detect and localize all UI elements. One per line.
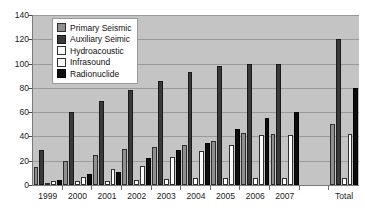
bar (247, 64, 252, 185)
y-tick-mark (28, 88, 32, 89)
x-tick-mark (91, 185, 92, 190)
x-tick-mark (269, 185, 270, 190)
bar (265, 118, 270, 185)
y-tick-mark (28, 39, 32, 40)
bar (51, 181, 56, 185)
bar (134, 180, 139, 185)
bar (193, 178, 198, 185)
bar (294, 112, 299, 185)
bar (336, 39, 341, 185)
y-tick-label: 80 (1, 84, 29, 93)
y-tick-label: 40 (1, 132, 29, 141)
x-tick-label: 2007 (270, 192, 300, 201)
bar (259, 135, 264, 185)
y-tick-label: 120 (1, 35, 29, 44)
y-tick-label: 140 (1, 11, 29, 20)
x-tick-mark (239, 185, 240, 190)
bar (276, 64, 281, 185)
bar (105, 181, 110, 185)
x-tick-label: 2001 (92, 192, 122, 201)
x-tick-label: 2006 (240, 192, 270, 201)
chart-legend: Primary SeismicAuxiliary SeimicHydroacou… (52, 18, 138, 84)
legend-item: Auxiliary Seimic (57, 34, 131, 46)
legend-swatch-icon (57, 23, 66, 32)
bar (229, 145, 234, 185)
legend-label: Hydroacoustic (70, 47, 124, 56)
x-tick-label: Total (329, 192, 359, 201)
legend-swatch-icon (57, 46, 66, 55)
bar-group (181, 15, 211, 185)
x-tick-label: 2000 (63, 192, 93, 201)
bar-group (270, 15, 300, 185)
bar (81, 177, 86, 186)
bar (288, 135, 293, 185)
bar (188, 72, 193, 185)
bar-group (211, 15, 241, 185)
x-tick-mark (328, 185, 329, 190)
y-tick-label: 0 (1, 181, 29, 190)
legend-item: Primary Seismic (57, 22, 131, 34)
legend-label: Primary Seismic (70, 24, 131, 33)
legend-swatch-icon (57, 58, 66, 67)
bar (271, 134, 276, 185)
y-tick-mark (28, 161, 32, 162)
bar (63, 161, 68, 185)
y-tick-label: 60 (1, 108, 29, 117)
x-tick-mark (210, 185, 211, 190)
bar (217, 66, 222, 185)
bar (75, 181, 80, 185)
x-tick-label: 2002 (122, 192, 152, 201)
x-tick-mark (299, 185, 300, 190)
y-tick-label: 100 (1, 60, 29, 69)
bar (111, 169, 116, 185)
bar (176, 150, 181, 185)
y-tick-mark (28, 15, 32, 16)
legend-item: Radionuclide (57, 68, 131, 80)
bar-group (152, 15, 182, 185)
bar (205, 143, 210, 186)
y-tick-mark (28, 112, 32, 113)
bar (342, 178, 347, 185)
bar (39, 150, 44, 185)
bar-group (329, 15, 359, 185)
legend-item: Infrasound (57, 57, 131, 69)
bar (152, 147, 157, 185)
bar (116, 172, 121, 185)
bar (128, 90, 133, 185)
bar (34, 167, 39, 185)
bar (199, 151, 204, 185)
bar (45, 183, 50, 185)
bar (253, 178, 258, 185)
legend-swatch-icon (57, 35, 66, 44)
legend-label: Radionuclide (70, 70, 119, 79)
bar (353, 88, 358, 185)
x-tick-label: 2005 (211, 192, 241, 201)
x-tick-label (300, 192, 330, 201)
bar (140, 166, 145, 185)
bar-chart: 140120100806040200 199920002001200220032… (0, 0, 365, 216)
x-tick-label: 2004 (181, 192, 211, 201)
bar (158, 81, 163, 185)
x-tick-label: 1999 (33, 192, 63, 201)
bar (211, 141, 216, 185)
x-tick-mark (62, 185, 63, 190)
legend-swatch-icon (57, 69, 66, 78)
bar (93, 155, 98, 185)
legend-label: Auxiliary Seimic (70, 35, 130, 44)
bar (87, 174, 92, 185)
legend-label: Infrasound (70, 58, 110, 67)
y-tick-mark (28, 185, 32, 186)
y-tick-mark (28, 136, 32, 137)
bar-group (240, 15, 270, 185)
x-tick-mark (151, 185, 152, 190)
y-tick-mark (28, 64, 32, 65)
bar (235, 129, 240, 185)
y-tick-label: 20 (1, 157, 29, 166)
bar (348, 134, 353, 185)
bar (170, 157, 175, 185)
bar (282, 178, 287, 185)
bar (99, 101, 104, 185)
bar (223, 178, 228, 185)
x-tick-mark (121, 185, 122, 190)
x-tick-label: 2003 (152, 192, 182, 201)
